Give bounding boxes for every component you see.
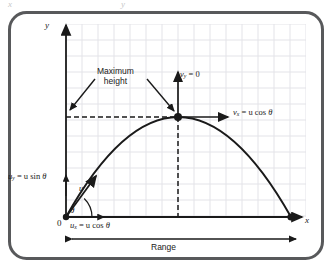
diagram-svg — [0, 0, 332, 266]
vy-rest: = 0 — [188, 69, 199, 79]
figure-canvas: x y — [0, 0, 332, 266]
vx-subscript: x — [237, 111, 240, 117]
apex-point — [174, 113, 182, 121]
landing-point — [287, 213, 294, 220]
uy-rest: = u sin — [17, 171, 40, 181]
u-vector-label: u — [79, 184, 83, 193]
uy-theta: θ — [42, 171, 46, 181]
range-label: Range — [151, 243, 176, 253]
vx-theta: θ — [268, 107, 272, 117]
theta-label: θ — [70, 206, 74, 215]
uy-label: uy = u sin θ — [8, 172, 46, 182]
max-height-line2: height — [104, 76, 127, 86]
uy-subscript: y — [12, 175, 15, 181]
vy-zero-label: vy = 0 — [180, 70, 200, 80]
max-height-line1: Maximum — [97, 66, 134, 76]
y-axis-label: y — [45, 21, 49, 30]
vy-subscript: y — [184, 73, 187, 79]
ux-label: ux = u cos θ — [70, 221, 110, 231]
ux-theta: θ — [106, 220, 110, 230]
vx-label: vx = u cos θ — [233, 108, 272, 118]
origin-point — [63, 214, 69, 220]
ux-rest: = u cos — [79, 220, 104, 230]
vx-rest: = u cos — [241, 107, 266, 117]
ux-subscript: x — [74, 224, 77, 230]
x-axis-label: x — [305, 216, 309, 225]
origin-label: 0 — [57, 219, 62, 228]
max-height-label: Maximumheight — [97, 67, 134, 87]
